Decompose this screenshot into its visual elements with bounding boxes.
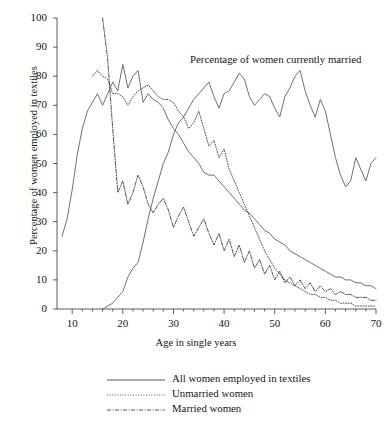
x-tick-label: 50 xyxy=(260,317,290,329)
y-tick-label: 30 xyxy=(17,215,47,227)
x-tick-label: 70 xyxy=(361,317,391,329)
y-tick-label: 0 xyxy=(17,302,47,314)
y-tick-label: 80 xyxy=(17,69,47,81)
y-tick-label: 90 xyxy=(17,40,47,52)
legend-swatches xyxy=(0,368,392,428)
x-tick-label: 10 xyxy=(57,317,87,329)
y-tick-label: 10 xyxy=(17,273,47,285)
series-line-1 xyxy=(92,70,376,306)
x-tick-label: 40 xyxy=(209,317,239,329)
series-line-0 xyxy=(62,65,376,289)
x-tick-label: 60 xyxy=(310,317,340,329)
y-tick-label: 40 xyxy=(17,186,47,198)
y-tick-label: 60 xyxy=(17,127,47,139)
x-tick-label: 20 xyxy=(108,317,138,329)
y-tick-label: 100 xyxy=(17,11,47,23)
y-tick-label: 50 xyxy=(17,157,47,169)
y-tick-label: 20 xyxy=(17,244,47,256)
chart-figure: Percentage of women employed in textiles… xyxy=(0,0,392,432)
y-tick-label: 70 xyxy=(17,98,47,110)
series-annotation-married-percentage: Percentage of women currently married xyxy=(190,53,361,65)
x-tick-label: 30 xyxy=(158,317,188,329)
x-axis-title: Age in single years xyxy=(0,337,392,348)
